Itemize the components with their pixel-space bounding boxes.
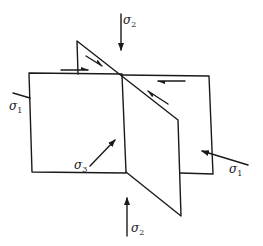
sigma1-right-arrow [202, 151, 248, 165]
sigma3-label: σ3 [74, 158, 87, 174]
sigma1-right-label: σ1 [229, 162, 242, 178]
sigma1-left-line [13, 93, 30, 98]
sigma1-left-label: σ1 [9, 99, 22, 115]
sigma3-arrow [90, 140, 115, 166]
horizontal-plane [29, 73, 213, 174]
sigma2-bottom-label: σ2 [131, 221, 144, 237]
inclined-plane [77, 41, 181, 216]
shear-arrow-right-inclined [148, 91, 168, 104]
sigma2-top-label: σ2 [123, 13, 136, 29]
vertical-plane-edge [122, 75, 126, 172]
stress-diagram: σ2 σ2 σ1 σ1 σ3 [0, 0, 263, 246]
shear-arrow-top-left-inclined [86, 56, 102, 66]
